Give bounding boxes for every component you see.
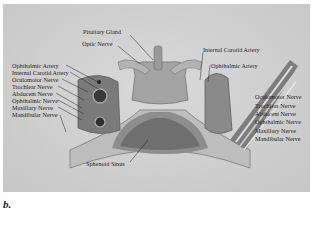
label-left-ophthalmic-artery: Ophthalmic Artery (12, 62, 59, 69)
label-left-ophthalmic-nerve: Ophthalmic Nerve (12, 97, 58, 104)
panel-letter: b. (3, 198, 11, 210)
label-left-oculomotor-nerve: Oculomotor Nerve (12, 76, 59, 83)
label-left-trochlear-nerve: Trochlear Nerve (12, 83, 53, 90)
label-right-oculomotor-nerve: Oculomotor Nerve (255, 93, 302, 100)
label-left-internal-carotid-artery: Internal Carotid Artery (12, 69, 69, 76)
label-right-maxillary-nerve: Maxillary Nerve (255, 127, 296, 134)
label-right-abducent-nerve: Abducent Nerve (255, 110, 296, 117)
label-right-trochlear-nerve: Trochlear Nerve (255, 102, 296, 109)
label-optic-nerve: Optic Nerve (82, 40, 112, 47)
label-left-mandibular-nerve: Mandibular Nerve (12, 111, 58, 118)
label-right-ophthalmic-nerve: Ophthalmic Nerve (255, 118, 301, 125)
label-left-maxillary-nerve: Maxillary Nerve (12, 104, 53, 111)
label-right-mandibular-nerve: Mandibular Nerve (255, 135, 301, 142)
label-right-ophthalmic-artery: Ophthalmic Artery (211, 62, 258, 69)
label-sphenoid-sinus: Sphenoid Sinus (86, 160, 125, 167)
label-right-internal-carotid-artery: Internal Carotid Artery (203, 46, 260, 53)
label-pituitary-gland: Pituitary Gland (83, 28, 121, 35)
label-left-abducent-nerve: Abducent Nerve (12, 90, 53, 97)
